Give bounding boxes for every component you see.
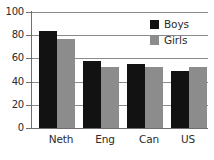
- bar-boys-us: [171, 71, 189, 128]
- y-tick-label-60: 60: [0, 53, 24, 63]
- x-tick-label-us: US: [171, 133, 205, 145]
- gridline-100: [31, 12, 208, 13]
- legend-swatch-girls-icon: [150, 36, 159, 45]
- x-tick-label-neth: Neth: [39, 133, 83, 145]
- y-tick-label-100: 100: [0, 7, 24, 17]
- y-axis-line: [31, 11, 32, 129]
- legend-label-girls: Girls: [164, 35, 187, 46]
- y-tick-label-40: 40: [0, 77, 24, 87]
- bar-girls-can: [145, 67, 163, 128]
- y-tick-label-80: 80: [0, 30, 24, 40]
- legend-swatch-boys-icon: [150, 20, 159, 29]
- y-tick-label-0: 0: [0, 123, 24, 133]
- bar-boys-eng: [83, 61, 101, 128]
- y-tick-20: [26, 105, 31, 106]
- y-tick-80: [26, 35, 31, 36]
- bar-chart: 100 80 60 40 20 0 Neth Eng Can US Boys G…: [0, 0, 214, 160]
- bar-girls-us: [189, 67, 207, 128]
- bar-girls-eng: [101, 67, 119, 128]
- x-tick-label-eng: Eng: [83, 133, 127, 145]
- bar-boys-can: [127, 64, 145, 128]
- legend: Boys Girls: [150, 19, 189, 46]
- y-tick-100: [26, 12, 31, 13]
- legend-item-boys: Boys: [150, 19, 189, 30]
- y-tick-60: [26, 58, 31, 59]
- y-tick-label-20: 20: [0, 100, 24, 110]
- x-axis-line: [31, 128, 208, 129]
- y-tick-40: [26, 82, 31, 83]
- y-tick-0: [26, 128, 31, 129]
- bar-girls-neth: [57, 39, 75, 128]
- bar-boys-neth: [39, 31, 57, 128]
- legend-item-girls: Girls: [150, 35, 189, 46]
- x-tick-label-can: Can: [127, 133, 171, 145]
- legend-label-boys: Boys: [164, 19, 189, 30]
